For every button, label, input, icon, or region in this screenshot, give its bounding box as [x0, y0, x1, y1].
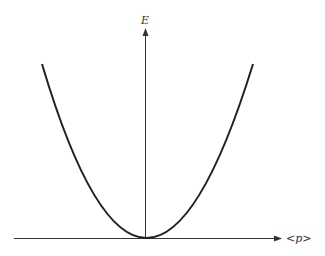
energy-momentum-diagram: E <p> [0, 0, 325, 256]
y-axis-label: E [140, 14, 149, 27]
parabola-curve [42, 64, 253, 238]
x-axis-label: <p> [286, 232, 311, 245]
